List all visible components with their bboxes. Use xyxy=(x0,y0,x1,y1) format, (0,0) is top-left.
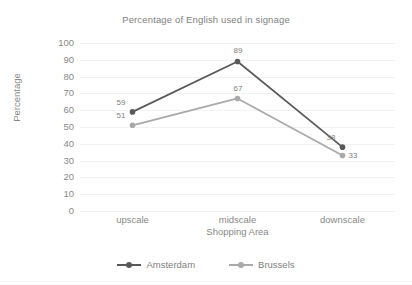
series-markers-brussels xyxy=(130,96,346,159)
legend-marker-icon xyxy=(117,261,141,269)
series-line-amsterdam xyxy=(133,61,343,147)
data-label: 51 xyxy=(117,112,126,120)
legend-item-amsterdam[interactable]: Amsterdam xyxy=(117,259,195,270)
data-point[interactable] xyxy=(340,144,346,150)
line-chart: Percentage of English used in signage 10… xyxy=(0,0,412,285)
series-line-brussels xyxy=(133,98,343,155)
legend-marker-icon xyxy=(229,261,253,269)
data-label: 33 xyxy=(349,152,358,160)
data-label: 67 xyxy=(234,85,243,93)
data-point[interactable] xyxy=(235,96,241,102)
bottom-divider xyxy=(0,281,412,282)
series-markers-amsterdam xyxy=(130,59,346,150)
data-label: 59 xyxy=(117,99,126,107)
legend-label: Brussels xyxy=(258,259,294,270)
x-axis-title: Shopping Area xyxy=(80,226,395,237)
x-tick-label-downscale: downscale xyxy=(320,214,365,225)
legend: Amsterdam Brussels xyxy=(0,259,412,270)
data-label: 89 xyxy=(234,47,243,55)
legend-label: Amsterdam xyxy=(146,259,195,270)
data-point[interactable] xyxy=(130,123,136,129)
x-tick-label-midscale: midscale xyxy=(219,214,257,225)
series-layer xyxy=(0,0,412,285)
data-point[interactable] xyxy=(340,153,346,159)
legend-item-brussels[interactable]: Brussels xyxy=(229,259,294,270)
data-point[interactable] xyxy=(130,109,136,115)
data-point[interactable] xyxy=(235,59,241,65)
data-label: 38 xyxy=(327,134,336,142)
x-tick-label-upscale: upscale xyxy=(116,214,149,225)
